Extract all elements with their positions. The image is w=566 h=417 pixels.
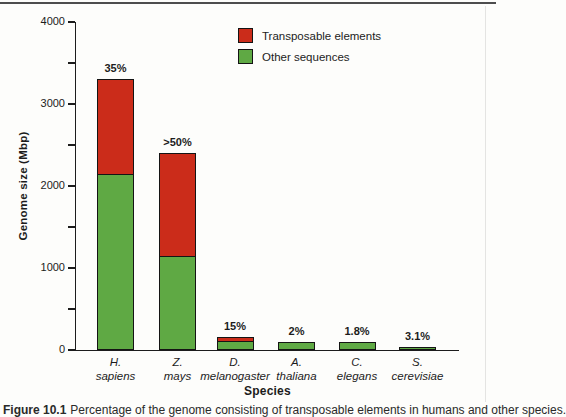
legend-swatch-green [238,49,253,64]
legend: Transposable elements Other sequences [238,28,381,70]
bar-segment-transposable [218,338,253,342]
bar-s-cerevisiae [399,347,436,350]
y-axis-tick [68,226,75,228]
y-axis-tick-label: 0 [27,343,65,355]
x-axis-category-label: S.cerevisiae [368,355,468,383]
caption-number: Figure 10.1 [3,403,66,417]
bar-percent-label: 3.1% [383,330,453,342]
y-axis-tick [68,103,75,105]
legend-item-transposable-elements: Transposable elements [238,28,381,43]
bar-percent-label: 2% [262,325,332,337]
page-edge-line [485,6,486,402]
plot-area: Genome size (Mbp) Species 01000200030004… [75,22,459,351]
caption-text: Percentage of the genome consisting of t… [70,403,566,417]
bar-segment-transposable [160,154,195,257]
y-axis-tick [68,349,75,351]
legend-swatch-red [238,28,253,43]
bar-a-thaliana [278,342,315,350]
bar-percent-label: >50% [143,136,213,148]
y-axis-tick-label: 4000 [27,15,65,27]
species-abbr: S. [368,355,468,369]
y-axis-tick-label: 3000 [27,97,65,109]
y-axis-tick [68,308,75,310]
y-axis-tick [68,21,75,23]
legend-item-other-sequences: Other sequences [238,49,381,64]
figure-top-rule [0,2,496,4]
bar-h-sapiens [97,79,134,350]
species-name: cerevisiae [368,369,468,383]
bar-percent-label: 15% [200,320,270,332]
y-axis-tick-label: 2000 [27,179,65,191]
bar-percent-label: 1.8% [322,325,392,337]
y-axis-tick [68,144,75,146]
legend-label: Transposable elements [262,30,381,42]
bar-z-mays [159,153,196,350]
y-axis-tick [68,62,75,64]
figure-caption-clipped: Figure 10.1Percentage of the genome cons… [3,403,495,417]
y-axis-tick [68,185,75,187]
bar-segment-transposable [98,80,133,175]
bar-percent-label: 35% [81,62,151,74]
bar-d-melanogaster [217,337,254,350]
legend-label: Other sequences [262,51,350,63]
y-axis-tick-label: 1000 [27,261,65,273]
y-axis-tick [68,267,75,269]
x-axis-title: Species [76,384,459,398]
bar-c-elegans [339,342,376,350]
